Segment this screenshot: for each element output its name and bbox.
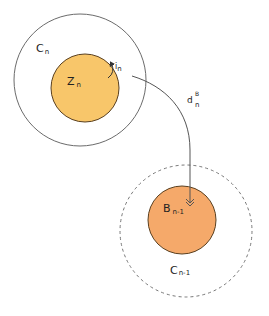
label-d-n-b-sup: B (195, 90, 199, 97)
b-n-minus-1-circle (148, 186, 216, 254)
label-c-n-minus-1: Cn-1 (170, 264, 190, 277)
chain-complex-diagram: Cn Zn in d B n Bn-1 Cn-1 (0, 0, 269, 316)
label-d-n-b: d (187, 95, 193, 105)
boundary-map-arrow (132, 76, 190, 203)
label-i-n: in (115, 62, 122, 73)
z-n-circle (51, 54, 119, 122)
label-d-n-b-sub: n (195, 101, 199, 109)
label-c-n: Cn (36, 42, 49, 56)
